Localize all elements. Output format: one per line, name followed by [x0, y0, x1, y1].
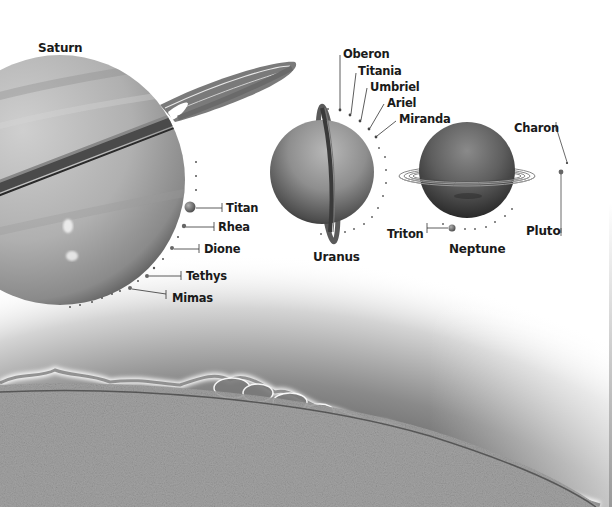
label-ariel: Ariel [387, 96, 416, 110]
label-charon: Charon [514, 121, 559, 135]
uranus [270, 106, 374, 243]
moon-miranda [375, 136, 378, 139]
label-titania: Titania [358, 64, 402, 78]
solar-system-illustration [0, 0, 612, 507]
pluto-system [556, 122, 568, 236]
triton-leader-line [427, 223, 448, 233]
moon-dione [170, 246, 174, 250]
label-titan: Titan [226, 201, 258, 215]
label-umbriel: Umbriel [370, 80, 420, 94]
moon-ariel [368, 128, 371, 131]
label-dione: Dione [204, 242, 240, 256]
moon-oberon [339, 109, 342, 112]
label-mimas: Mimas [172, 291, 213, 305]
label-triton: Triton [387, 227, 424, 241]
label-saturn: Saturn [38, 41, 82, 55]
neptune [399, 122, 535, 218]
label-tethys: Tethys [186, 269, 227, 283]
moon-umbriel [359, 120, 362, 123]
moon-rhea [182, 224, 186, 228]
moon-tethys [145, 274, 149, 278]
label-uranus: Uranus [313, 250, 360, 264]
moon-charon [566, 162, 568, 164]
label-neptune: Neptune [449, 242, 505, 256]
moon-mimas [128, 286, 132, 290]
label-pluto: Pluto [526, 224, 560, 238]
moon-titan [185, 202, 196, 213]
label-rhea: Rhea [218, 220, 250, 234]
pluto [559, 170, 564, 175]
moon-triton [449, 225, 456, 232]
label-miranda: Miranda [399, 112, 451, 126]
moon-titania [349, 114, 352, 117]
label-oberon: Oberon [343, 47, 389, 61]
